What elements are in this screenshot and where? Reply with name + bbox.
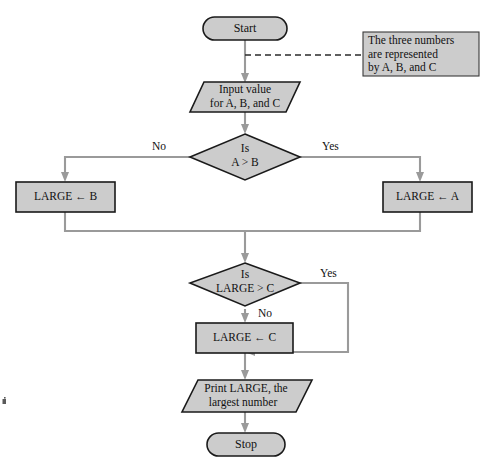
connector-largeb-to-merge (65, 212, 245, 231)
node-input[interactable]: Input value for A, B, and C (190, 82, 300, 112)
node-decision1-line2: A > B (231, 156, 259, 168)
connector-merge-to-decision2 (241, 231, 249, 263)
flowchart-canvas: Start Input value for A, B, and C Is A >… (0, 0, 486, 469)
node-output-print[interactable]: Print LARGE, the largest number (182, 380, 312, 412)
node-stop-label: Stop (235, 437, 257, 451)
branch-label-d2-no: No (258, 307, 272, 319)
node-start[interactable]: Start (203, 17, 287, 40)
node-input-line2: for A, B, and C (210, 97, 281, 110)
node-decision-large-greater-c[interactable]: Is LARGE > C (190, 263, 300, 306)
node-input-line1: Input value (219, 83, 271, 96)
connector-output-to-stop (241, 412, 249, 433)
flowchart-svg: Start Input value for A, B, and C Is A >… (0, 0, 486, 469)
node-large-assign-b[interactable]: LARGE ← B (16, 182, 115, 212)
node-stop[interactable]: Stop (207, 433, 285, 456)
connector-decision1-yes (300, 157, 424, 182)
node-decision2-line1: Is (241, 268, 250, 280)
node-decision-a-greater-b[interactable]: Is A > B (190, 134, 300, 180)
node-start-label: Start (234, 21, 257, 35)
annotation-line1: The three numbers (368, 34, 455, 46)
branch-label-d1-yes: Yes (322, 140, 339, 152)
node-large-a-label: LARGE ← A (396, 190, 460, 202)
branch-label-d2-yes: Yes (320, 267, 337, 279)
connector-decision1-no (61, 157, 190, 182)
node-decision1-line1: Is (241, 142, 250, 154)
annotation-note: The three numbers are represented by A, … (363, 32, 479, 76)
branch-label-d1-no: No (152, 140, 166, 152)
scan-artifact-speck (3, 397, 7, 404)
connector-largec-to-output (241, 353, 249, 380)
node-decision2-line2: LARGE > C (216, 282, 275, 294)
annotation-line3: by A, B, and C (368, 61, 437, 74)
annotation-line2: are represented (368, 48, 438, 61)
node-output-line1: Print LARGE, the (204, 382, 287, 395)
connector-largea-to-merge (245, 212, 420, 231)
node-large-b-label: LARGE ← B (34, 190, 98, 202)
node-output-line2: largest number (209, 396, 278, 409)
connector-decision2-no (241, 309, 249, 323)
connector-input-to-decision1 (241, 112, 249, 134)
connector-start-to-input (241, 40, 249, 83)
node-large-assign-c[interactable]: LARGE ← C (196, 323, 293, 353)
node-large-c-label: LARGE ← C (213, 331, 277, 343)
node-large-assign-a[interactable]: LARGE ← A (383, 182, 472, 212)
